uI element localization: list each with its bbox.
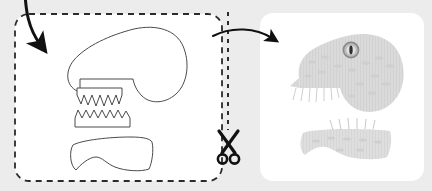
- dinosaur-eye: [343, 42, 358, 57]
- diagram-canvas: Dinosaur head papercraft cut-and-assembl…: [0, 0, 432, 191]
- dinosaur-eye-pupil: [349, 46, 352, 55]
- template-panel: [15, 14, 222, 181]
- diagram-svg: [0, 0, 432, 191]
- result-panel: [260, 13, 424, 181]
